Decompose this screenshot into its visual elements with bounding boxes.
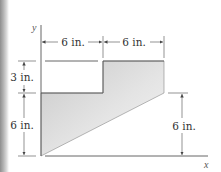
area-diagram: y x 6 in. 6 in. 3 in. 6 in. 6 i [0, 0, 221, 172]
dim-top-right-label: 6 in. [122, 36, 145, 48]
x-axis-label: x [203, 159, 209, 170]
dim-left-upper-label: 3 in. [10, 71, 33, 83]
shaded-region [41, 61, 164, 156]
dim-left-lower-label: 6 in. [10, 119, 33, 131]
y-axis-label: y [31, 22, 37, 33]
dim-right-label: 6 in. [172, 120, 195, 132]
dim-top-left-label: 6 in. [61, 36, 84, 48]
